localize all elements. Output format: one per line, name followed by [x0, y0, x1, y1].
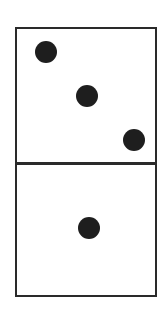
domino-tile: [15, 27, 157, 297]
pip-top-2: [76, 85, 98, 107]
pip-top-3: [123, 129, 145, 151]
domino-divider: [17, 162, 155, 165]
pip-top-1: [35, 41, 57, 63]
pip-bottom-1: [78, 217, 100, 239]
